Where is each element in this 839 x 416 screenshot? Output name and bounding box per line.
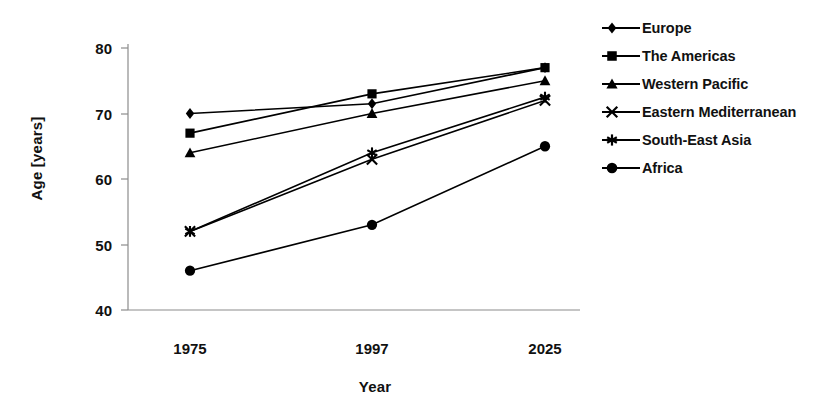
legend-label-the-americas: The Americas <box>642 48 735 64</box>
legend-label-western-pacific: Western Pacific <box>642 76 748 92</box>
legend-item-europe: Europe <box>598 14 839 42</box>
legend-marker-diamond-icon <box>598 14 642 42</box>
series-the-americas <box>185 63 549 138</box>
legend-label-south-east-asia: South-East Asia <box>642 132 751 148</box>
legend-item-south-east-asia: South-East Asia <box>598 126 839 154</box>
data-series-layer <box>185 62 551 276</box>
legend-label-africa: Africa <box>642 160 683 176</box>
legend-marker-asterisk-icon <box>598 126 642 154</box>
legend-item-africa: Africa <box>598 154 839 182</box>
life-expectancy-line-chart: Age [years] 80 70 60 50 40 1975 1997 202… <box>0 0 839 416</box>
series-western-pacific <box>185 75 551 157</box>
legend-marker-triangle-icon <box>598 70 642 98</box>
legend-item-eastern-mediterranean: Eastern Mediterranean <box>598 98 839 126</box>
legend-item-the-americas: The Americas <box>598 42 839 70</box>
legend-label-eastern-mediterranean: Eastern Mediterranean <box>642 104 796 120</box>
chart-legend: Europe The Americas Western Pacific East… <box>598 14 839 182</box>
legend-item-western-pacific: Western Pacific <box>598 70 839 98</box>
legend-marker-square-icon <box>598 42 642 70</box>
legend-label-europe: Europe <box>642 20 691 36</box>
legend-marker-circle-icon <box>598 154 642 182</box>
legend-marker-x-icon <box>598 98 642 126</box>
